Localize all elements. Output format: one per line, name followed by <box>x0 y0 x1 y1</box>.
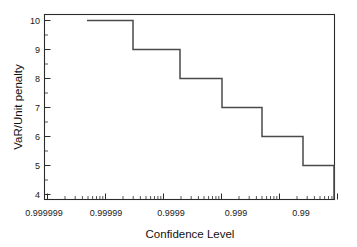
y-tick-label-7: 7 <box>35 103 40 113</box>
y-tick-label-9: 9 <box>35 45 40 55</box>
y-tick-label-6: 6 <box>35 132 40 142</box>
x-axis-title: Confidence Level <box>146 228 235 240</box>
x-tick-label-4: 0.99 <box>292 208 310 218</box>
y-tick-label-10: 10 <box>30 16 40 26</box>
y-tick-label-8: 8 <box>35 74 40 84</box>
chart-canvas: 10 9 8 7 6 5 4 0.999999 0.99999 0.9999 0… <box>0 0 357 247</box>
x-tick-label-2: 0.9999 <box>157 208 185 218</box>
y-tick-label-5: 5 <box>35 161 40 171</box>
x-tick-label-3: 0.999 <box>225 208 248 218</box>
y-axis-major-ticks <box>45 21 51 195</box>
x-axis-major-ticks <box>48 194 338 200</box>
step-series-var-unit-penalty <box>87 21 334 200</box>
x-tick-label-0: 0.999999 <box>25 208 63 218</box>
chart-figure: 10 9 8 7 6 5 4 0.999999 0.99999 0.9999 0… <box>0 0 357 247</box>
y-tick-label-4: 4 <box>35 190 40 200</box>
y-axis-title: VaR/Unit penalty <box>12 64 24 150</box>
x-tick-label-1: 0.99999 <box>90 208 123 218</box>
plot-frame <box>45 15 335 200</box>
